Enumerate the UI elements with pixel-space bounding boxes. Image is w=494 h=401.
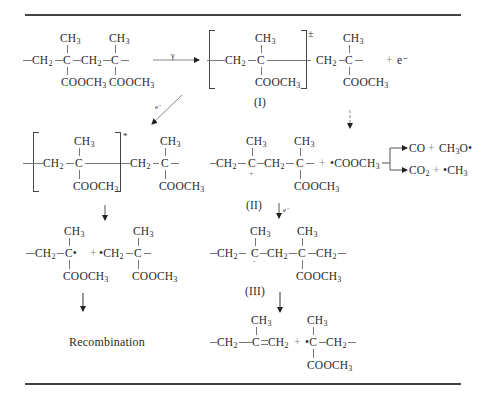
ester-group: COOCH3 — [73, 180, 118, 196]
bond — [55, 60, 63, 61]
tertiary-radical: C• — [65, 247, 77, 259]
bond — [126, 253, 133, 254]
bond — [153, 163, 159, 164]
ester-group: COOCH3 — [343, 76, 388, 92]
bond — [313, 349, 314, 358]
quaternary-carbon: C — [345, 54, 353, 66]
ch2-group: CH2 — [130, 157, 151, 173]
bond — [289, 253, 297, 254]
ch3-group: CH3 — [297, 225, 318, 241]
plus-sign: + — [386, 54, 393, 66]
bond — [348, 342, 356, 343]
plus-sign: + — [433, 164, 440, 176]
bond — [23, 60, 32, 61]
ester-group: COOCH3 — [63, 270, 108, 286]
cation-charge: + — [249, 168, 254, 180]
ester-group: COOCH3 — [294, 180, 339, 196]
double-bond — [261, 340, 268, 341]
recombination-label: Recombination — [69, 336, 145, 348]
plus-sign: + — [90, 247, 97, 259]
carbon-dioxide: CO2 — [409, 164, 430, 180]
electron-annotation: e⁻ — [155, 101, 162, 113]
bond — [79, 170, 80, 179]
electron-annotation: e⁻ — [283, 204, 290, 216]
compound-label-III: (III) — [245, 285, 265, 297]
methyl-radical: •CH3 — [443, 164, 468, 180]
bond — [300, 148, 301, 156]
bond — [66, 163, 74, 164]
bond — [308, 253, 316, 254]
alkene-carbon: C — [252, 336, 260, 348]
ester-group: COOCH3 — [132, 270, 177, 286]
plus-sign: + — [428, 142, 435, 154]
ester-group: COOCH3 — [159, 180, 204, 196]
ch3-group: CH3 — [109, 32, 130, 48]
bond — [248, 60, 256, 61]
bond — [85, 163, 130, 164]
ch3-group: CH3 — [60, 32, 81, 48]
bond — [144, 253, 151, 254]
compound-label-II: (II) — [246, 199, 262, 211]
ch2-group: CH2 — [35, 247, 56, 263]
bond — [286, 163, 294, 164]
bond — [57, 253, 64, 254]
ch3-group: CH3 — [246, 135, 267, 151]
radical-cation-sign: ± — [308, 28, 314, 40]
ch2-group: CH2 — [264, 157, 285, 173]
quaternary-carbon: C — [75, 157, 83, 169]
bond — [138, 260, 139, 269]
ester-group: COOCH3 — [307, 359, 352, 375]
bond — [355, 60, 363, 61]
bond — [238, 163, 246, 164]
bond — [252, 148, 253, 156]
ch3-group: CH3 — [250, 225, 271, 241]
bond — [210, 342, 217, 343]
double-bond — [261, 344, 268, 345]
bond — [171, 163, 179, 164]
compound-label-I: (I) — [254, 96, 266, 108]
quaternary-carbon: C — [161, 157, 169, 169]
bond — [260, 253, 267, 254]
bond — [79, 148, 80, 156]
bond — [349, 67, 350, 75]
ch3-group: CH3 — [294, 135, 315, 151]
ch2-group: CH2 — [316, 247, 337, 263]
bond — [165, 148, 166, 156]
ch3-group: CH3 — [307, 314, 328, 330]
bond — [257, 163, 264, 164]
bond — [103, 60, 111, 61]
plus-sign: + — [319, 157, 326, 169]
bond — [338, 253, 346, 254]
bond — [300, 170, 301, 179]
bond — [69, 260, 70, 269]
bond — [23, 163, 43, 164]
ch2-group: CH2 — [316, 54, 337, 70]
quaternary-carbon: C — [296, 157, 304, 169]
ch2-group: CH2 — [225, 54, 246, 70]
ester-group: COOCH3 — [296, 270, 341, 286]
right-bracket — [115, 132, 121, 192]
ester-group: COOCH3 — [109, 76, 154, 92]
ch2-group: CH2 — [43, 157, 64, 173]
ch2-group: CH2 — [81, 54, 102, 70]
bond — [69, 238, 70, 246]
bond — [165, 170, 166, 179]
bond — [239, 253, 246, 254]
bond — [73, 60, 81, 61]
ch2-group: CH2 — [267, 247, 288, 263]
quaternary-carbon: C — [257, 54, 265, 66]
ch3-group: CH3 — [74, 135, 95, 151]
bond — [302, 238, 303, 246]
ejected-electron: e⁻ — [397, 54, 409, 66]
bond — [210, 253, 217, 254]
ch2-group: CH2 — [216, 157, 237, 173]
bond — [115, 67, 116, 75]
gamma-label: γ — [171, 50, 175, 62]
bond — [115, 45, 116, 53]
ch3-group: CH3 — [255, 32, 276, 48]
plus-sign: + — [294, 336, 301, 348]
ch2-group: CH2 — [268, 336, 289, 352]
ch2-group: CH2 — [217, 247, 238, 263]
ch2-group: CH2 — [326, 336, 347, 352]
bond — [138, 238, 139, 246]
